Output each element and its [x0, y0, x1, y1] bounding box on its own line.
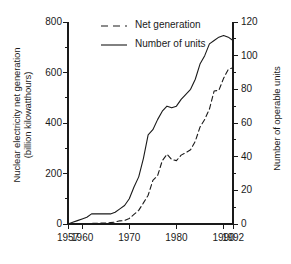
x-axis-tick-label: 1980: [154, 232, 198, 243]
x-axis-tick-label: 1970: [107, 232, 151, 243]
y-axis-left-tick-label: 600: [18, 67, 62, 78]
y-axis-right-tick-label: 120: [241, 16, 275, 27]
y-axis-right-tick-label: 20: [241, 184, 275, 195]
y-axis-right-tick-label: 80: [241, 83, 275, 94]
series-group: [68, 35, 233, 224]
x-axis-tick-label: 1960: [60, 232, 104, 243]
legend-label-2: Number of units: [135, 38, 206, 49]
y-axis-left-tick-label: 400: [18, 117, 62, 128]
y-axis-left-tick-label: 800: [18, 16, 62, 27]
data-series-line-1: [68, 68, 233, 224]
y-axis-right-tick-label: 40: [241, 151, 275, 162]
y-axis-left-tick-label: 200: [18, 168, 62, 179]
y-axis-right-tick-label: 100: [241, 50, 275, 61]
legend-label-1: Net generation: [135, 19, 201, 30]
x-axis-tick-label: 1992: [211, 232, 255, 243]
data-series-line-2: [68, 35, 233, 224]
y-axis-left-tick-label: 0: [18, 218, 62, 229]
y-axis-right-tick-label: 60: [241, 117, 275, 128]
chart-figure: Nuclear electricity net generation (bill…: [0, 0, 291, 264]
axes-group: [63, 22, 238, 229]
legend-group: [101, 26, 127, 45]
y-axis-right-tick-label: 0: [241, 218, 275, 229]
